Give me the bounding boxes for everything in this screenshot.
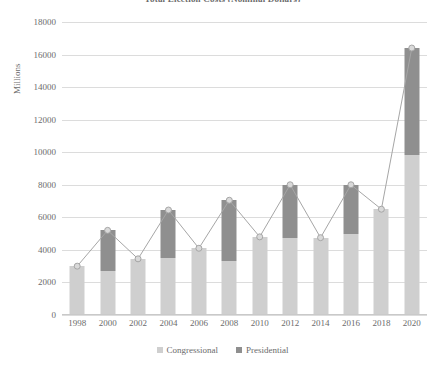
legend-swatch-icon (157, 347, 163, 353)
bar-presidential[interactable] (100, 230, 115, 271)
y-axis-tick-label: 6000 (38, 212, 56, 222)
bar-slot[interactable] (397, 22, 427, 315)
chart-title: Total Election Costs (Nominal Dollars) (0, 0, 445, 2)
bar-congressional[interactable] (283, 238, 298, 315)
bar-congressional[interactable] (161, 258, 176, 315)
y-axis-tick-label: 2000 (38, 277, 56, 287)
y-axis-tick-label: 0 (52, 310, 57, 320)
bar-presidential[interactable] (222, 200, 237, 261)
x-axis-tick-label: 2014 (312, 318, 330, 328)
chart-legend: CongressionalPresidential (0, 345, 445, 355)
legend-item[interactable]: Congressional (157, 345, 219, 355)
x-axis-tick-label: 2002 (129, 318, 147, 328)
bar-slot[interactable] (275, 22, 305, 315)
y-axis-tick-label: 12000 (34, 115, 57, 125)
y-axis-tick-label: 16000 (34, 50, 57, 60)
bar-congressional[interactable] (222, 261, 237, 315)
legend-label: Presidential (246, 345, 289, 355)
y-axis-tick-label: 4000 (38, 245, 56, 255)
bar-presidential[interactable] (404, 48, 419, 155)
bar-congressional[interactable] (313, 238, 328, 315)
bar-group (62, 22, 427, 315)
bar-congressional[interactable] (252, 237, 267, 315)
x-axis-tick-label: 2008 (220, 318, 238, 328)
bar-slot[interactable] (305, 22, 335, 315)
bar-congressional[interactable] (374, 209, 389, 315)
bar-slot[interactable] (366, 22, 396, 315)
x-axis-tick-label: 2000 (99, 318, 117, 328)
bar-slot[interactable] (62, 22, 92, 315)
legend-swatch-icon (236, 347, 242, 353)
x-axis-ticks: 1998200020022004200620082010201220142016… (62, 318, 427, 334)
bar-slot[interactable] (336, 22, 366, 315)
bar-slot[interactable] (245, 22, 275, 315)
y-axis-title-label: Millions (12, 63, 22, 94)
bar-presidential[interactable] (161, 210, 176, 258)
x-axis-tick-label: 2012 (281, 318, 299, 328)
bar-congressional[interactable] (131, 259, 146, 315)
x-axis-tick-label: 2004 (159, 318, 177, 328)
bar-slot[interactable] (92, 22, 122, 315)
axis-baseline (62, 314, 427, 315)
bar-congressional[interactable] (70, 266, 85, 315)
y-axis-tick-label: 18000 (34, 17, 57, 27)
bar-congressional[interactable] (343, 234, 358, 315)
y-axis-tick-label: 14000 (34, 82, 57, 92)
x-axis-tick-label: 2018 (372, 318, 390, 328)
bar-congressional[interactable] (191, 248, 206, 315)
bar-slot[interactable] (123, 22, 153, 315)
x-axis-tick-label: 1998 (68, 318, 86, 328)
chart-container: Total Election Costs (Nominal Dollars) M… (0, 0, 445, 371)
bar-congressional[interactable] (404, 155, 419, 315)
x-axis-tick-label: 2010 (251, 318, 269, 328)
bar-presidential[interactable] (343, 185, 358, 234)
bar-congressional[interactable] (100, 271, 115, 315)
x-axis-tick-label: 2016 (342, 318, 360, 328)
x-axis-tick-label: 2020 (403, 318, 421, 328)
plot-area: 0200040006000800010000120001400016000180… (62, 22, 427, 315)
x-axis-tick-label: 2006 (190, 318, 208, 328)
y-axis-tick-label: 10000 (34, 147, 57, 157)
bar-presidential[interactable] (283, 185, 298, 238)
bar-slot[interactable] (184, 22, 214, 315)
legend-label: Congressional (167, 345, 219, 355)
legend-item[interactable]: Presidential (236, 345, 289, 355)
bar-slot[interactable] (214, 22, 244, 315)
gridline (62, 315, 427, 316)
y-axis-tick-label: 8000 (38, 180, 56, 190)
bar-slot[interactable] (153, 22, 183, 315)
